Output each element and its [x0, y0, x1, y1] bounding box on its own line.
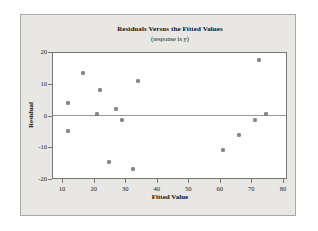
y-tick-mark [48, 84, 52, 85]
x-tick-mark [283, 179, 284, 183]
zero-reference-line [53, 115, 286, 116]
x-tick-mark [94, 179, 95, 183]
y-tick-mark [48, 147, 52, 148]
x-tick-label: 50 [178, 185, 198, 193]
x-tick-label: 30 [115, 185, 135, 193]
data-point [237, 133, 241, 137]
x-tick-label: 10 [52, 185, 72, 193]
data-point [136, 79, 140, 83]
x-tick-mark [188, 179, 189, 183]
data-point [98, 88, 102, 92]
chart-subtitle: (response is y) [151, 35, 189, 42]
data-point [264, 112, 268, 116]
x-tick-label: 40 [147, 185, 167, 193]
x-tick-mark [125, 179, 126, 183]
x-tick-mark [251, 179, 252, 183]
x-axis-label: Fitted Value [152, 193, 188, 201]
data-point [81, 71, 85, 75]
y-tick-label: 10 [21, 80, 47, 88]
x-tick-label: 70 [241, 185, 261, 193]
data-point [95, 112, 99, 116]
y-tick-label: 20 [21, 48, 47, 56]
y-tick-mark [48, 116, 52, 117]
x-tick-label: 80 [273, 185, 293, 193]
x-tick-mark [157, 179, 158, 183]
chart-title: Residuals Versus the Fitted Values [117, 25, 223, 33]
data-point [253, 118, 257, 122]
y-tick-label: 0 [21, 112, 47, 120]
data-point [114, 107, 118, 111]
y-tick-mark [48, 179, 52, 180]
x-tick-label: 60 [210, 185, 230, 193]
residual-plot-figure: Residuals Versus the Fitted Values (resp… [0, 0, 318, 231]
x-tick-mark [220, 179, 221, 183]
x-tick-label: 20 [84, 185, 104, 193]
x-tick-mark [62, 179, 63, 183]
y-tick-label: -10 [21, 143, 47, 151]
y-tick-label: -20 [21, 175, 47, 183]
y-tick-mark [48, 52, 52, 53]
